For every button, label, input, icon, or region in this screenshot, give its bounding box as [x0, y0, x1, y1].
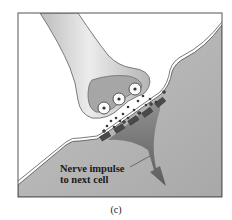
callout-label: Nerve impulse to next cell: [60, 163, 124, 185]
synapse-figure: Nerve impulse to next cell (c): [0, 0, 232, 220]
synapse-diagram: [0, 0, 232, 220]
callout-line-1: Nerve impulse: [60, 163, 124, 174]
figure-caption: (c): [0, 204, 232, 215]
callout-line-2: to next cell: [60, 174, 124, 185]
